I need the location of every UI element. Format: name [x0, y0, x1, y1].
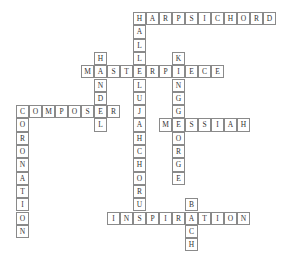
crossword-cell[interactable]: C	[198, 65, 211, 78]
crossword-cell[interactable]: P	[146, 212, 159, 225]
crossword-cell[interactable]: H	[133, 132, 146, 145]
crossword-cell[interactable]: H	[133, 12, 146, 25]
crossword-cell[interactable]: D	[263, 12, 276, 25]
crossword-cell[interactable]: O	[29, 105, 42, 118]
crossword-cell[interactable]: A	[133, 118, 146, 131]
crossword-cell[interactable]: C	[185, 225, 198, 238]
crossword-cell[interactable]: O	[16, 145, 29, 158]
crossword-cell[interactable]: R	[16, 132, 29, 145]
crossword-cell[interactable]: N	[237, 212, 250, 225]
crossword-cell[interactable]: S	[185, 12, 198, 25]
crossword-cell[interactable]: H	[94, 52, 107, 65]
crossword-cell[interactable]: E	[211, 65, 224, 78]
crossword-cell[interactable]: S	[107, 65, 120, 78]
crossword-cell[interactable]: O	[68, 105, 81, 118]
crossword-cell[interactable]: J	[133, 105, 146, 118]
crossword-cell[interactable]: E	[133, 65, 146, 78]
crossword-cell[interactable]: L	[94, 118, 107, 131]
crossword-cell[interactable]: O	[133, 172, 146, 185]
crossword-cell[interactable]: S	[133, 212, 146, 225]
crossword-cell[interactable]: G	[172, 158, 185, 171]
crossword-cell[interactable]: P	[159, 65, 172, 78]
crossword-cell[interactable]: C	[211, 12, 224, 25]
crossword-cell[interactable]: U	[133, 92, 146, 105]
crossword-cell[interactable]: E	[185, 65, 198, 78]
crossword-cell[interactable]: L	[133, 79, 146, 92]
crossword-cell[interactable]: T	[16, 185, 29, 198]
crossword-cell[interactable]: R	[146, 65, 159, 78]
crossword-cell[interactable]: N	[94, 79, 107, 92]
crossword-cell[interactable]: H	[224, 12, 237, 25]
crossword-cell[interactable]: L	[133, 52, 146, 65]
crossword-cell[interactable]: I	[16, 198, 29, 211]
crossword-cell[interactable]: E	[172, 118, 185, 131]
crossword-cell[interactable]: E	[94, 105, 107, 118]
crossword-cell[interactable]: P	[55, 105, 68, 118]
crossword-cell[interactable]: N	[16, 225, 29, 238]
crossword-cell[interactable]: O	[16, 212, 29, 225]
crossword-cell[interactable]: S	[81, 105, 94, 118]
crossword-cell[interactable]: P	[172, 12, 185, 25]
crossword-cell[interactable]: R	[172, 145, 185, 158]
crossword-cell[interactable]: T	[120, 65, 133, 78]
crossword-cell[interactable]: I	[211, 118, 224, 131]
crossword-cell[interactable]: H	[185, 238, 198, 251]
crossword-cell[interactable]: M	[81, 65, 94, 78]
crossword-cell[interactable]: A	[94, 65, 107, 78]
crossword-cell[interactable]: A	[16, 172, 29, 185]
crossword-cell[interactable]: O	[224, 212, 237, 225]
crossword-cell[interactable]: N	[120, 212, 133, 225]
crossword-cell[interactable]: H	[133, 158, 146, 171]
crossword-cell[interactable]: N	[16, 158, 29, 171]
crossword-cell[interactable]: C	[16, 105, 29, 118]
crossword-cell[interactable]: R	[107, 105, 120, 118]
crossword-cell[interactable]: R	[133, 185, 146, 198]
crossword-cell[interactable]: U	[133, 198, 146, 211]
crossword-cell[interactable]: L	[133, 39, 146, 52]
crossword-cell[interactable]: C	[133, 145, 146, 158]
crossword-cell[interactable]: T	[198, 212, 211, 225]
crossword-cell[interactable]: I	[159, 212, 172, 225]
crossword-grid: HARPSICHORDALLELUJAHCHORUSHANDELKINGGEOR…	[0, 0, 288, 270]
crossword-cell[interactable]: S	[198, 118, 211, 131]
crossword-cell[interactable]: M	[159, 118, 172, 131]
crossword-cell[interactable]: B	[185, 198, 198, 211]
crossword-cell[interactable]: I	[198, 12, 211, 25]
crossword-cell[interactable]: I	[107, 212, 120, 225]
crossword-cell[interactable]: R	[250, 12, 263, 25]
crossword-cell[interactable]: S	[185, 118, 198, 131]
crossword-cell[interactable]: A	[224, 118, 237, 131]
crossword-cell[interactable]: N	[172, 79, 185, 92]
crossword-cell[interactable]: D	[94, 92, 107, 105]
crossword-cell[interactable]: R	[172, 212, 185, 225]
crossword-cell[interactable]: I	[172, 65, 185, 78]
crossword-cell[interactable]: G	[172, 105, 185, 118]
crossword-cell[interactable]: M	[42, 105, 55, 118]
crossword-cell[interactable]: R	[159, 12, 172, 25]
crossword-cell[interactable]: I	[211, 212, 224, 225]
crossword-cell[interactable]: H	[237, 118, 250, 131]
crossword-cell[interactable]: A	[146, 12, 159, 25]
crossword-cell[interactable]: E	[172, 172, 185, 185]
crossword-cell[interactable]: O	[237, 12, 250, 25]
crossword-cell[interactable]: G	[172, 92, 185, 105]
crossword-cell[interactable]: O	[16, 118, 29, 131]
crossword-cell[interactable]: A	[133, 25, 146, 38]
crossword-cell[interactable]: A	[185, 212, 198, 225]
crossword-cell[interactable]: O	[172, 132, 185, 145]
crossword-cell[interactable]: K	[172, 52, 185, 65]
